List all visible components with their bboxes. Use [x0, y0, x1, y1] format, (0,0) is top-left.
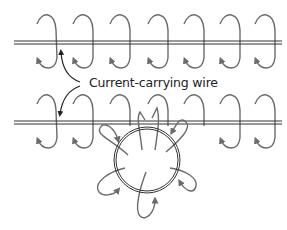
- current-carrying-wire-label: Current-carrying wire: [89, 75, 218, 90]
- magnetic-field-diagram: [0, 0, 287, 230]
- circular-current-loop: [114, 127, 180, 193]
- upper-straight-wire: [14, 41, 282, 44]
- lower-straight-wire: [14, 121, 282, 124]
- label-pointer-arrows: [60, 52, 80, 114]
